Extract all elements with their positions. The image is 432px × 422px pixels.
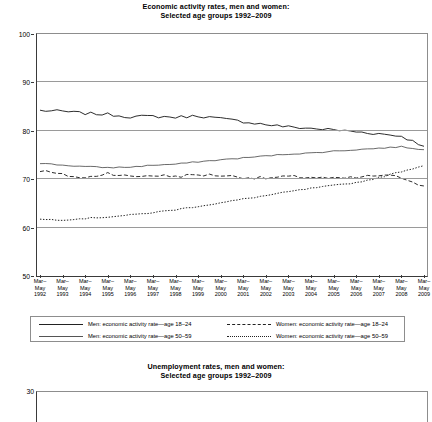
chart1-y-tick-80: 80 — [22, 127, 30, 134]
chart1-y-tick-100: 100 — [19, 31, 30, 38]
chart1-x-tickmark-1993 — [63, 275, 64, 278]
chart1-y-tick-labels: 5060708090100 — [0, 33, 34, 277]
chart1-series-2 — [40, 146, 424, 168]
chart1-title-line2: Selected age groups 1992–2009 — [0, 11, 432, 20]
chart1-x-tickmark-2005 — [334, 275, 335, 278]
economic-activity-chart: Economic activity rates, men and women: … — [0, 0, 432, 310]
chart1-y-tickmark-100 — [31, 34, 34, 35]
chart1-y-tickmark-90 — [31, 82, 34, 83]
legend-swatch-men-50-59 — [39, 332, 83, 340]
chart2-title-line1: Unemployment rates, men and women: — [0, 362, 432, 371]
chart2-y-tick-30: 30 — [0, 388, 34, 395]
chart1-x-tickmark-1999 — [198, 275, 199, 278]
chart1-y-tickmark-60 — [31, 228, 34, 229]
chart1-y-tickmark-70 — [31, 179, 34, 180]
chart1-x-tickmark-1997 — [153, 275, 154, 278]
chart1-x-tickmark-2008 — [401, 275, 402, 278]
chart1-plot-area — [36, 33, 428, 277]
chart1-gridline-70 — [37, 178, 427, 179]
legend-item-men-18-24[interactable]: Men: economic activity rate—age 18–24 — [39, 318, 229, 330]
chart1-series-3 — [40, 166, 424, 221]
chart1-x-tickmark-2002 — [266, 275, 267, 278]
chart1-x-tickmark-2006 — [356, 275, 357, 278]
chart1-x-tickmark-2003 — [288, 275, 289, 278]
chart1-gridline-90 — [37, 81, 427, 82]
legend-label-men-18-24: Men: economic activity rate—age 18–24 — [88, 321, 191, 327]
legend-swatch-men-18-24 — [39, 320, 83, 328]
chart1-y-tick-60: 60 — [22, 224, 30, 231]
chart1-title-line1: Economic activity rates, men and women: — [0, 2, 432, 11]
page-root: Economic activity rates, men and women: … — [0, 0, 432, 422]
chart1-x-tick-labels: Mar–May1992Mar–May1993Mar–May1994Mar–May… — [36, 278, 428, 310]
chart1-x-tickmark-1992 — [40, 275, 41, 278]
chart1-y-tick-70: 70 — [22, 176, 30, 183]
legend-label-women-50-59: Women: economic activity rate—age 50–59 — [276, 333, 388, 339]
legend-row-2: Men: economic activity rate—age 50–59 Wo… — [31, 330, 404, 342]
legend-label-men-50-59: Men: economic activity rate—age 50–59 — [88, 333, 191, 339]
chart1-gridline-60 — [37, 227, 427, 228]
chart1-x-tickmark-1998 — [176, 275, 177, 278]
unemployment-chart: Unemployment rates, men and women: Selec… — [0, 360, 432, 422]
chart1-x-tickmark-2000 — [221, 275, 222, 278]
legend-item-women-50-59[interactable]: Women: economic activity rate—age 50–59 — [227, 330, 405, 342]
chart2-plot-area — [36, 391, 428, 422]
legend-row-1: Men: economic activity rate—age 18–24 Wo… — [31, 318, 404, 330]
chart1-y-tick-90: 90 — [22, 79, 30, 86]
legend-label-women-18-24: Women: economic activity rate—age 18–24 — [276, 321, 388, 327]
chart1-legend: Men: economic activity rate—age 18–24 Wo… — [30, 316, 405, 342]
chart1-gridline-80 — [37, 130, 427, 131]
chart1-x-tickmark-2001 — [243, 275, 244, 278]
legend-swatch-women-50-59 — [227, 332, 271, 340]
chart1-y-tickmark-80 — [31, 131, 34, 132]
chart1-y-tickmark-50 — [31, 276, 34, 277]
chart1-series-0 — [40, 110, 424, 147]
legend-swatch-women-18-24 — [227, 320, 271, 328]
chart2-title-line2: Selected age groups 1992–2009 — [0, 371, 432, 380]
chart1-x-tickmark-2009 — [424, 275, 425, 278]
chart1-x-tickmark-2004 — [311, 275, 312, 278]
legend-item-men-50-59[interactable]: Men: economic activity rate—age 50–59 — [39, 330, 229, 342]
chart1-x-tickmark-1995 — [108, 275, 109, 278]
chart1-x-tick-2009: Mar–May2009 — [411, 278, 432, 298]
chart1-series-lines — [37, 34, 427, 276]
chart1-x-tickmark-1994 — [85, 275, 86, 278]
chart1-x-tickmark-1996 — [130, 275, 131, 278]
legend-item-women-18-24[interactable]: Women: economic activity rate—age 18–24 — [227, 318, 405, 330]
chart1-x-tickmark-2007 — [379, 275, 380, 278]
